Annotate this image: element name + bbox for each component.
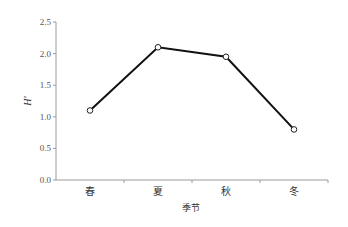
- y-tick-label: 2.0: [40, 49, 52, 59]
- x-tick-label: 夏: [153, 186, 163, 197]
- data-point-marker: [87, 108, 93, 114]
- x-tick-label: 春: [85, 186, 95, 197]
- y-tick-label: 0.5: [40, 143, 52, 153]
- y-tick-label: 2.5: [40, 17, 52, 27]
- y-tick-label: 1.0: [40, 112, 52, 122]
- y-tick-label: 1.5: [40, 80, 52, 90]
- y-tick-label: 0.0: [40, 175, 52, 185]
- x-axis: 春夏秋冬: [56, 180, 328, 197]
- data-point-marker: [291, 127, 297, 133]
- x-axis-title: 季节: [182, 202, 200, 213]
- x-tick-label: 冬: [289, 185, 299, 197]
- data-series: [87, 44, 297, 132]
- data-point-marker: [223, 54, 229, 60]
- data-point-marker: [155, 44, 161, 50]
- series-line: [90, 47, 294, 129]
- line-chart: 0.00.51.01.52.02.5 春夏秋冬 H′ 季节: [0, 0, 348, 227]
- y-axis: 0.00.51.01.52.02.5: [40, 17, 56, 185]
- x-tick-label: 秋: [221, 185, 231, 197]
- y-axis-title: H′: [22, 95, 33, 106]
